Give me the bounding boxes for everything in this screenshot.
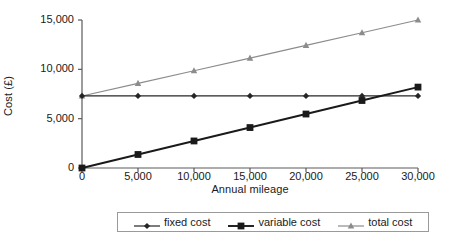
plot-area xyxy=(0,0,460,242)
legend-marker-triangle-icon xyxy=(338,217,364,227)
data-point-marker xyxy=(415,84,422,91)
data-point-marker xyxy=(135,93,141,99)
data-point-marker xyxy=(247,93,253,99)
legend-item-fixed-cost[interactable]: fixed cost xyxy=(134,216,210,228)
legend-item-total-cost[interactable]: total cost xyxy=(338,216,412,228)
legend-item-variable-cost[interactable]: variable cost xyxy=(228,216,320,228)
series-total-cost xyxy=(79,16,422,98)
data-point-marker xyxy=(135,151,142,158)
data-point-marker xyxy=(359,97,366,104)
data-point-marker xyxy=(415,93,421,99)
data-point-marker xyxy=(247,124,254,131)
data-point-marker xyxy=(144,223,150,229)
legend-marker-diamond-icon xyxy=(134,217,160,227)
legend-marker-square-icon xyxy=(228,217,254,227)
data-point-marker xyxy=(303,111,310,118)
legend-label: total cost xyxy=(368,216,412,228)
legend-label: fixed cost xyxy=(164,216,210,228)
data-point-marker xyxy=(238,223,245,230)
cost-vs-mileage-chart: Cost (£) 05,00010,00015,000 05,00010,000… xyxy=(0,0,460,242)
data-point-marker xyxy=(191,138,198,145)
legend-label: variable cost xyxy=(258,216,320,228)
data-point-marker xyxy=(303,93,309,99)
data-point-marker xyxy=(79,165,86,172)
chart-legend: fixed costvariable costtotal cost xyxy=(117,212,429,232)
data-point-marker xyxy=(191,93,197,99)
data-point-marker xyxy=(415,16,422,22)
